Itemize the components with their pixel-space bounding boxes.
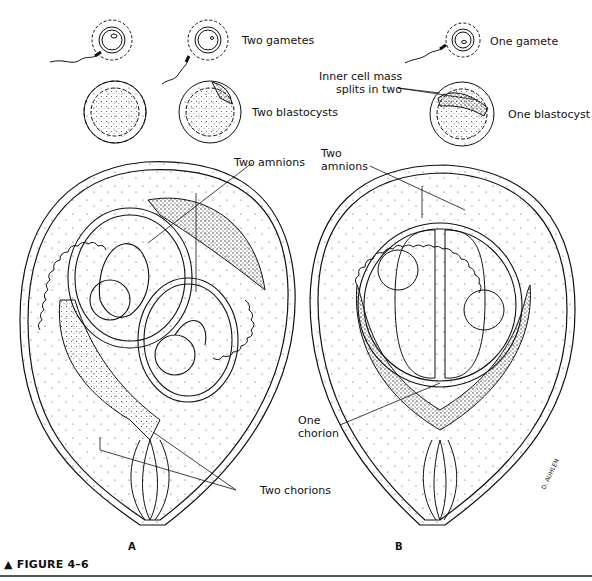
label-two-amnions-b-1: Two (321, 147, 342, 160)
gamete-right (162, 20, 228, 84)
label-two-gametes: Two gametes (242, 34, 314, 47)
gamete-left (50, 20, 132, 62)
caption-rule (0, 575, 592, 577)
artist-signature: D. AUHLEN (540, 457, 560, 490)
panel-letter-b: B (395, 541, 403, 552)
figure-caption: ▲ FIGURE 4–6 (4, 558, 89, 571)
label-two-amnions-a: Two amnions (234, 156, 305, 169)
label-one-chorion-1: One (298, 414, 320, 427)
gamete-single (405, 23, 480, 63)
label-one-gamete: One gamete (490, 35, 558, 48)
caption-triangle-icon: ▲ (4, 558, 13, 571)
label-inner-cell-mass-2: splits in two (336, 83, 402, 96)
caption-text: FIGURE 4–6 (17, 558, 89, 571)
label-one-blastocyst: One blastocyst (508, 108, 590, 121)
blastocyst-right (179, 81, 241, 143)
label-two-chorions: Two chorions (260, 484, 331, 497)
label-two-blastocysts: Two blastocysts (252, 106, 338, 119)
label-one-chorion-2: chorion (298, 427, 339, 440)
uterus-a (20, 162, 295, 525)
blastocyst-left (84, 81, 146, 143)
panel-letter-a: A (128, 541, 136, 552)
blastocyst-single (430, 82, 494, 146)
label-inner-cell-mass-1: Inner cell mass (319, 70, 402, 83)
label-two-amnions-b-2: amnions (321, 160, 368, 173)
uterus-b (310, 165, 575, 525)
